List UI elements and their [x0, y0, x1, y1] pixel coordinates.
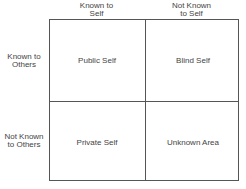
- column-header-line2: Self: [49, 10, 144, 18]
- johari-grid: Public Self Blind Self Private Self Unkn…: [49, 19, 239, 181]
- row-header-known-to-others: Known to Others: [2, 53, 46, 69]
- column-header-line2: to Self: [144, 10, 239, 18]
- cell-label: Blind Self: [176, 56, 210, 65]
- row-header-line2: to Others: [2, 141, 46, 149]
- cell-label: Private Self: [77, 138, 118, 147]
- row-header-not-known-to-others: Not Known to Others: [2, 133, 46, 149]
- cell-label: Public Self: [78, 56, 116, 65]
- cell-blind-self: Blind Self: [146, 20, 240, 100]
- cell-private-self: Private Self: [50, 102, 144, 182]
- cell-unknown-area: Unknown Area: [146, 102, 240, 182]
- column-header-not-known-to-self: Not Known to Self: [144, 2, 239, 18]
- column-header-known-to-self: Known to Self: [49, 2, 144, 18]
- row-header-line2: Others: [2, 61, 46, 69]
- cell-label: Unknown Area: [167, 138, 219, 147]
- cell-public-self: Public Self: [50, 20, 144, 100]
